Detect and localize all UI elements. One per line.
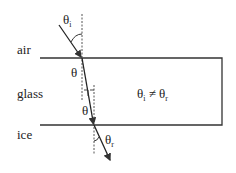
incident-ray bbox=[59, 25, 81, 57]
label-glass: glass bbox=[17, 87, 43, 100]
label-ice: ice bbox=[17, 128, 32, 141]
label-theta-glass-bottom: θ bbox=[82, 104, 88, 117]
relation-text: θi ≠ θr bbox=[137, 87, 168, 103]
glass-slab-outline bbox=[40, 58, 222, 125]
label-theta-i: θi bbox=[63, 13, 71, 29]
angle-arc-incident bbox=[71, 34, 82, 42]
angle-arc-ice bbox=[94, 137, 99, 141]
label-air: air bbox=[17, 43, 31, 56]
refraction-diagram: air glass ice θi θ θ θr θi ≠ θr bbox=[0, 0, 236, 173]
label-theta-glass-top: θ bbox=[71, 66, 77, 79]
label-theta-r: θr bbox=[105, 133, 114, 149]
